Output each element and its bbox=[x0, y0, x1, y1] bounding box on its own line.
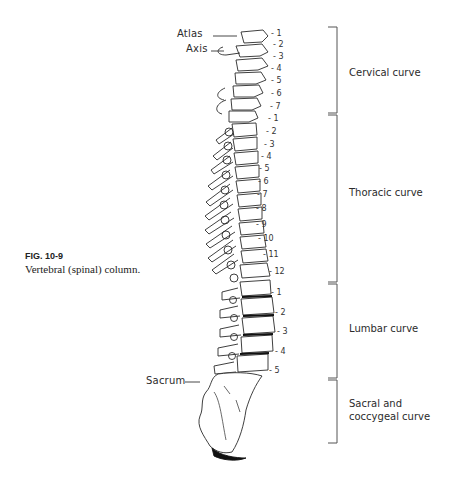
thoracic-number: - 3 bbox=[264, 141, 275, 149]
lumbar-vertebrae bbox=[214, 280, 275, 374]
thoracic-number: - 10 bbox=[258, 235, 274, 243]
thoracic-number: - 9 bbox=[256, 221, 267, 229]
figure-caption: Vertebral (spinal) column. bbox=[25, 263, 140, 275]
sacrum-bone bbox=[199, 373, 262, 453]
region-label-lumbar: Lumbar curve bbox=[349, 322, 418, 335]
atlas-label: Atlas bbox=[177, 28, 203, 39]
region-label-text: Sacral and bbox=[349, 397, 430, 410]
cervical-number: - 5 bbox=[271, 77, 282, 85]
region-label-text: Thoracic curve bbox=[349, 186, 423, 199]
sacrum-label: Sacrum bbox=[146, 375, 185, 386]
figure-number: FIG. 10-9 bbox=[25, 251, 63, 261]
region-label-text: Lumbar curve bbox=[349, 322, 418, 335]
cervical-number: - 3 bbox=[273, 53, 284, 61]
thoracic-number: - 1 bbox=[268, 115, 279, 123]
region-brackets bbox=[328, 27, 337, 443]
region-label-sacral-coccygeal: Sacral and coccygeal curve bbox=[349, 397, 430, 423]
lumbar-number: - 2 bbox=[275, 309, 286, 317]
axis-label: Axis bbox=[186, 43, 208, 54]
thoracic-number: - 12 bbox=[269, 268, 285, 276]
region-label-thoracic: Thoracic curve bbox=[349, 186, 423, 199]
thoracic-number: - 5 bbox=[259, 165, 270, 173]
thoracic-number: - 6 bbox=[258, 178, 269, 186]
cervical-number: - 7 bbox=[270, 103, 281, 111]
region-label-text: Cervical curve bbox=[349, 66, 421, 79]
thoracic-number: - 8 bbox=[256, 205, 267, 213]
cervical-number: - 6 bbox=[271, 90, 282, 98]
region-label-cervical: Cervical curve bbox=[349, 66, 421, 79]
thoracic-number: - 2 bbox=[266, 128, 277, 136]
lumbar-number: - 4 bbox=[275, 348, 286, 356]
lumbar-number: - 5 bbox=[269, 367, 280, 375]
region-label-text: coccygeal curve bbox=[349, 410, 430, 423]
thoracic-vertebrae bbox=[205, 123, 270, 282]
lumbar-number: - 3 bbox=[277, 328, 288, 336]
thoracic-number: - 11 bbox=[263, 251, 279, 259]
lumbar-number: - 1 bbox=[271, 289, 282, 297]
cervical-number: - 4 bbox=[271, 65, 282, 73]
cervical-number: - 1 bbox=[271, 30, 282, 38]
cervical-vertebrae bbox=[217, 30, 268, 122]
thoracic-number: - 7 bbox=[257, 191, 268, 199]
thoracic-number: - 4 bbox=[261, 153, 272, 161]
cervical-number: - 2 bbox=[273, 41, 284, 49]
